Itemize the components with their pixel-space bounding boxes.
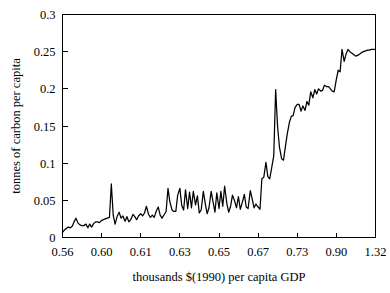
y-tick-label: 0 — [49, 231, 55, 245]
data-series-line — [63, 49, 376, 232]
y-tick-label: 0.25 — [34, 45, 56, 59]
x-tick-label: 0.63 — [169, 245, 191, 259]
x-axis: 0.560.600.610.630.650.670.730.901.32 — [52, 233, 387, 259]
x-tick-label: 1.32 — [365, 245, 387, 259]
x-axis-title: thousands $(1990) per capita GDP — [133, 270, 306, 284]
x-tick-label: 0.60 — [91, 245, 113, 259]
x-tick-label: 0.56 — [52, 245, 74, 259]
x-tick-label: 0.61 — [130, 245, 152, 259]
x-tick-label: 0.65 — [208, 245, 230, 259]
x-tick-label: 0.90 — [325, 245, 347, 259]
chart-canvas: 00.050.10.150.20.250.3 0.560.600.610.630… — [0, 0, 390, 293]
y-axis-title: tonnes of carbon per capita — [9, 58, 23, 194]
y-tick-label: 0.1 — [40, 157, 56, 171]
chart-figure: 00.050.10.150.20.250.3 0.560.600.610.630… — [0, 0, 390, 293]
y-tick-label: 0.05 — [34, 194, 56, 208]
y-tick-label: 0.2 — [40, 82, 56, 96]
x-tick-label: 0.67 — [247, 245, 269, 259]
x-tick-label: 0.73 — [286, 245, 308, 259]
y-tick-label: 0.3 — [40, 8, 56, 22]
y-tick-label: 0.15 — [34, 120, 56, 134]
